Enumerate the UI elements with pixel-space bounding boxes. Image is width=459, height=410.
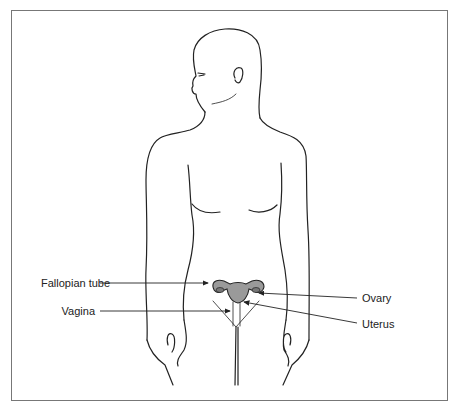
left-breast (192, 204, 220, 213)
left-ovary (216, 288, 224, 293)
right-torso-line (279, 163, 287, 320)
label-fallopian-tube: Fallopian tube (41, 277, 110, 289)
right-ovary (252, 288, 260, 293)
left-torso-line (183, 165, 193, 320)
right-hand (283, 320, 309, 385)
ovary-leader (259, 293, 357, 298)
uterus-leader (244, 302, 357, 323)
left-hand (147, 320, 186, 385)
uterus-diagram (213, 280, 264, 303)
label-uterus: Uterus (362, 318, 394, 330)
vagina-canal (233, 302, 240, 326)
label-vagina: Vagina (62, 305, 98, 317)
jaw-line (212, 94, 236, 104)
eye-outline (198, 73, 205, 76)
label-ovary: Ovary (362, 292, 391, 304)
pelvic-lines (213, 301, 259, 327)
right-breast (249, 205, 277, 212)
body-outline-illustration (0, 0, 459, 410)
leg-gap (235, 327, 238, 385)
left-shoulder-arm (146, 112, 205, 340)
ear-outline (234, 68, 243, 83)
